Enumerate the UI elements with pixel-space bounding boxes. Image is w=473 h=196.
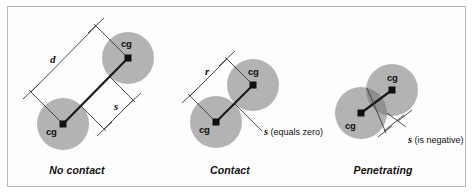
- caption-no-contact: No contact: [49, 164, 104, 176]
- dimension-s-label-no-contact: s: [114, 100, 118, 112]
- cg-label-lower-left-penetrating: cg: [345, 120, 356, 131]
- dimension-r-label: r: [205, 65, 209, 77]
- dimension-s-label-penetrating: s (is negative): [408, 134, 464, 145]
- caption-contact: Contact: [210, 164, 250, 176]
- dimension-d-cap-2: [88, 18, 104, 33]
- dimension-s-suffix-penetrating: (is negative): [412, 135, 464, 145]
- dimension-r-cap-1: [182, 88, 198, 103]
- dimension-s-suffix-contact: (equals zero): [268, 127, 323, 137]
- collision-separation-figure: cg cg d s cg cg r s (equals zero) cg cg …: [0, 0, 473, 196]
- panel-no-contact: [23, 18, 154, 150]
- dimension-d-line: [31, 26, 96, 92]
- cg-label-lower-left-no-contact: cg: [46, 126, 57, 137]
- dimension-r-cap-2: [219, 51, 235, 66]
- center-dot-lower-left: [358, 110, 365, 117]
- center-dot-lower-left: [60, 121, 67, 128]
- dimension-s-label-contact: s (equals zero): [264, 126, 323, 137]
- center-dot-upper-right: [389, 87, 396, 94]
- dimension-d-cap-1: [23, 84, 39, 99]
- dimension-s-group: [81, 77, 141, 136]
- caption-penetrating: Penetrating: [354, 164, 413, 176]
- cg-label-upper-right-no-contact: cg: [121, 38, 132, 49]
- center-dot-upper-right: [125, 55, 132, 62]
- center-dot-upper-right: [250, 82, 257, 89]
- center-connector-line: [63, 58, 128, 124]
- cg-label-lower-left-contact: cg: [199, 124, 210, 135]
- dimension-d-label: d: [50, 53, 56, 65]
- cg-label-upper-right-contact: cg: [248, 66, 259, 77]
- center-dot-lower-left: [213, 119, 220, 126]
- cg-label-upper-right-penetrating: cg: [387, 72, 398, 83]
